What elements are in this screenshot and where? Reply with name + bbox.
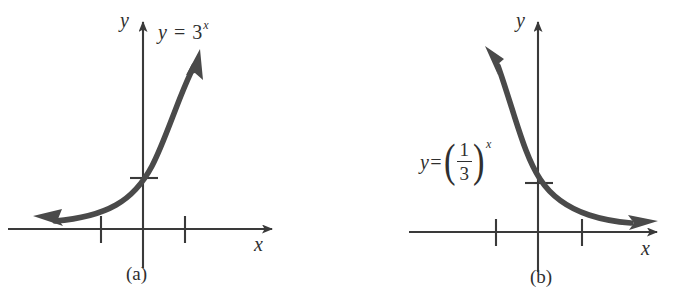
panel-a-caption: (a) [126,264,147,283]
x-axis-label: x [254,234,263,254]
equation-exponent: x [203,19,208,31]
equation-base: 3 [192,22,202,42]
panel-a-graph [0,0,346,307]
panel-b: y x y = ( 1 3 ) x (b) [346,0,692,307]
fraction-numerator: 1 [457,140,471,159]
equation-equals-sign: = [429,152,443,172]
equation-equals-sign: = [174,22,185,42]
y-axis-label: y [516,10,525,30]
close-paren: ) [473,142,484,180]
equation-lhs: y [158,22,167,42]
panel-a: y x y = 3 x (a) [0,0,346,307]
panel-b-graph [346,0,692,307]
equation-label-b: y = ( 1 3 ) x [420,140,491,183]
exponential-decay-curve [498,66,631,223]
equation-exponent: x [486,138,491,150]
x-axis-label: x [641,238,650,258]
fraction-one-third: 1 3 [457,140,472,183]
open-paren: ( [444,142,455,180]
panel-b-caption: (b) [530,267,552,286]
equation-lhs: y [420,152,429,172]
exponential-growth-curve [55,66,194,221]
curve-left-arrowhead [33,209,63,226]
exponential-functions-figure: y x y = 3 x (a) [0,0,692,307]
y-axis-label: y [120,10,129,30]
fraction-denominator: 3 [457,164,471,183]
equation-label-a: y = 3 x [158,22,208,42]
